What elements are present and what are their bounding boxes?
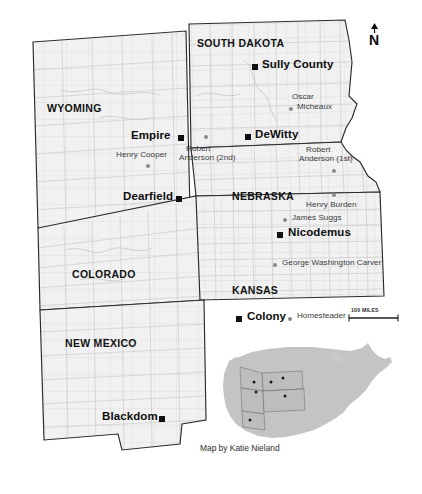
state-label-wyoming: WYOMING (47, 103, 102, 114)
colony-marker-nicodemus[interactable] (277, 232, 283, 238)
state-label-nebraska: NEBRASKA (232, 191, 294, 202)
state-label-kansas: KANSAS (232, 285, 278, 296)
legend-homesteader-label: Homesteader (297, 312, 346, 321)
homesteader-marker-george-washington-carver[interactable] (273, 263, 277, 267)
homesteader-label-george-washington-carver: George Washington Carver (282, 259, 381, 268)
legend-homesteader-marker-icon (288, 317, 292, 321)
north-arrow-label: N (369, 33, 379, 48)
homesteader-marker-robert-anderson-1st[interactable] (332, 169, 336, 173)
state-label-colorado: COLORADO (72, 269, 136, 280)
colony-label-dewitty: DeWitty (255, 128, 298, 140)
homesteader-label-oscar-micheaux-line1: Oscar (292, 93, 314, 102)
colony-label-nicodemus: Nicodemus (288, 226, 351, 238)
inset-locator-map (223, 343, 392, 438)
colony-label-blackdom: Blackdom (102, 410, 158, 422)
scale-bar-label: 100 MILES (351, 308, 379, 314)
homesteader-label-robert-anderson-2nd-line2: Anderson (2nd) (179, 154, 236, 163)
legend-colony-label: Colony (247, 310, 286, 322)
legend-colony-marker-icon (236, 316, 242, 322)
colony-marker-sully-county[interactable] (252, 64, 258, 70)
state-shape-new-mexico (38, 300, 206, 450)
colony-marker-dewitty[interactable] (245, 134, 251, 140)
homesteader-label-henry-burden: Henry Burden (306, 201, 357, 210)
homesteader-marker-henry-cooper[interactable] (146, 164, 150, 168)
colony-marker-dearfield[interactable] (176, 196, 182, 202)
state-label-south-dakota: SOUTH DAKOTA (197, 38, 284, 49)
homesteader-marker-james-suggs[interactable] (283, 218, 287, 222)
map-geometry-layer (0, 0, 422, 494)
colony-marker-blackdom[interactable] (159, 416, 165, 422)
colony-marker-empire[interactable] (178, 135, 184, 141)
homesteader-marker-oscar-micheaux[interactable] (289, 107, 293, 111)
state-label-new-mexico: NEW MEXICO (65, 338, 137, 349)
colony-label-dearfield: Dearfield (123, 190, 173, 202)
homesteader-label-james-suggs: James Suggs (292, 214, 342, 223)
colony-label-empire: Empire (131, 129, 171, 141)
homesteader-label-robert-anderson-1st-line2: Anderson (1st) (299, 155, 353, 164)
homesteader-label-henry-cooper: Henry Cooper (116, 151, 167, 160)
homesteader-label-oscar-micheaux-line2: Micheaux (297, 103, 332, 112)
homesteader-marker-henry-burden[interactable] (332, 193, 336, 197)
homesteader-marker-robert-anderson-2nd[interactable] (204, 135, 208, 139)
map-figure: WYOMING SOUTH DAKOTA NEBRASKA COLORADO K… (0, 0, 422, 494)
map-credit: Map by Katie Nieland (200, 444, 280, 453)
colony-label-sully-county: Sully County (262, 58, 333, 70)
scale-bar-icon (349, 315, 398, 322)
